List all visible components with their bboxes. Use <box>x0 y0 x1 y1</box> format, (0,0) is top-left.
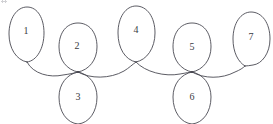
loop-2-label: 2 <box>75 40 80 51</box>
loop-4-label: 4 <box>134 24 139 35</box>
loop-5-label: 5 <box>190 41 195 52</box>
node-a-point[interactable] <box>77 71 79 73</box>
node-b-point[interactable] <box>191 71 193 73</box>
loop-chain-diagram: 1 2 3 4 5 6 7 <box>0 0 273 124</box>
loop-labels: 1 2 3 4 5 6 7 <box>24 24 254 102</box>
loop-1-label: 1 <box>24 25 29 36</box>
connector-links <box>27 62 245 77</box>
crossing-nodes <box>77 71 193 73</box>
loop-3-label: 3 <box>76 91 81 102</box>
loop-7-label: 7 <box>249 31 254 42</box>
link-node-a-to-loop4 <box>78 62 136 77</box>
loop-6-label: 6 <box>190 91 195 102</box>
diagram-canvas: 1 2 3 4 5 6 7 <box>0 0 273 124</box>
